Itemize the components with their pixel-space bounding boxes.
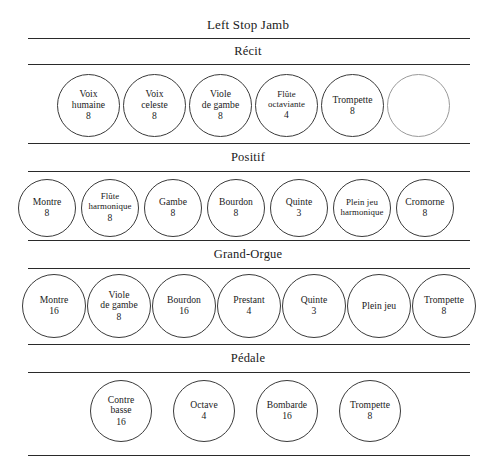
stop-name-line2: celeste (141, 100, 167, 111)
stop-knob[interactable]: Trompette8 (339, 380, 401, 442)
divider-rule (28, 268, 470, 269)
division-label-grand-orgue: Grand-Orgue (0, 247, 496, 262)
stop-knob[interactable]: Plein jeuharmonique (333, 179, 391, 237)
stop-knob[interactable]: Trompette8 (412, 274, 476, 338)
stop-pitch: 8 (368, 411, 373, 422)
stop-pitch: 4 (284, 110, 289, 121)
stop-knob[interactable]: Prestant4 (217, 274, 281, 338)
stop-knob[interactable]: Flûteoctaviante4 (255, 74, 318, 137)
page-title: Left Stop Jamb (0, 17, 496, 33)
stop-knob[interactable]: Montre16 (22, 274, 86, 338)
stop-name-line1: Prestant (233, 295, 264, 306)
stop-name-line1: Cromorne (405, 197, 444, 208)
stop-knob[interactable]: Bombarde16 (256, 380, 318, 442)
stop-pitch: 8 (86, 111, 91, 122)
divider-rule (28, 372, 470, 373)
division-label-pedale: Pédale (0, 351, 496, 366)
stop-pitch: 4 (202, 411, 207, 422)
stop-pitch: 8 (45, 208, 50, 219)
stop-pitch: 8 (350, 106, 355, 117)
stop-knob[interactable]: Bourdon16 (152, 274, 216, 338)
stop-knob[interactable]: Violede gambe8 (189, 74, 252, 137)
divider-rule (28, 143, 470, 144)
stop-knob[interactable]: Cromorne8 (396, 179, 454, 237)
stop-name-line1: Octave (190, 400, 217, 411)
divider-rule (28, 64, 470, 65)
stop-pitch: 16 (179, 306, 189, 317)
stop-name-line2: octaviante (268, 100, 305, 110)
stop-name-line1: Montre (40, 295, 69, 306)
stop-knob[interactable]: Voixceleste8 (123, 74, 186, 137)
stop-name-line1: Gambe (159, 197, 187, 208)
stop-knob[interactable]: Voixhumaine8 (57, 74, 120, 137)
stop-name-line1: Trompette (350, 400, 390, 411)
stop-name-line1: Quinte (301, 295, 327, 306)
stop-name-line1: Trompette (332, 95, 372, 106)
stop-row-positif: Montre8Flûteharmonique8Gambe8Bourdon8Qui… (0, 177, 496, 247)
stop-pitch: 8 (423, 208, 428, 219)
stop-pitch: 3 (312, 306, 317, 317)
stop-name-line2: humaine (72, 100, 105, 111)
stop-pitch: 8 (152, 111, 157, 122)
stop-knob[interactable]: Gambe8 (144, 179, 202, 237)
stop-pitch: 8 (442, 306, 447, 317)
stop-pitch: 4 (247, 306, 252, 317)
division-label-recit: Récit (0, 44, 496, 59)
stop-knob-blank[interactable] (387, 74, 450, 137)
stop-knob[interactable]: Montre8 (18, 179, 76, 237)
stop-pitch: 16 (282, 411, 292, 422)
stop-name-line2: basse (110, 405, 131, 416)
divider-rule (28, 344, 470, 345)
division-label-positif: Positif (0, 150, 496, 165)
stop-knob[interactable]: Contrebasse16 (90, 380, 152, 442)
stop-row-recit: Voixhumaine8Voixceleste8Violede gambe8Fl… (0, 72, 496, 142)
stop-name-line2: harmonique (341, 208, 384, 218)
stop-knob[interactable]: Bourdon8 (207, 179, 265, 237)
divider-rule (28, 455, 470, 456)
stop-pitch: 8 (108, 213, 113, 224)
divider-rule (28, 38, 470, 39)
stop-name-line1: Trompette (424, 295, 464, 306)
stop-name-line1: Bombarde (267, 400, 307, 411)
stop-knob[interactable]: Flûteharmonique8 (81, 179, 139, 237)
stop-pitch: 16 (116, 417, 126, 428)
stop-knob[interactable]: Quinte3 (282, 274, 346, 338)
stop-pitch: 3 (297, 208, 302, 219)
stop-knob[interactable]: Plein jeu (347, 274, 411, 338)
stop-name-line2: de gambe (100, 300, 137, 311)
stop-knob[interactable]: Quinte3 (270, 179, 328, 237)
stop-name-line1: Plein jeu (362, 301, 396, 312)
stop-knob[interactable]: Trompette8 (321, 74, 384, 137)
stop-name-line2: de gambe (202, 100, 239, 111)
stop-name-line2: harmonique (89, 202, 132, 212)
left-stop-jamb-diagram: Left Stop Jamb Récit Voixhumaine8Voixcel… (0, 0, 496, 476)
stop-knob[interactable]: Violede gambe8 (87, 274, 151, 338)
divider-rule (28, 240, 470, 241)
stop-knob[interactable]: Octave4 (173, 380, 235, 442)
stop-pitch: 16 (49, 306, 59, 317)
stop-pitch: 8 (234, 208, 239, 219)
stop-name-line1: Bourdon (167, 295, 201, 306)
stop-row-pedale: Contrebasse16Octave4Bombarde16Trompette8 (0, 378, 496, 448)
stop-name-line1: Montre (33, 197, 62, 208)
stop-row-grand-orgue: Montre16Violede gambe8Bourdon16Prestant4… (0, 272, 496, 342)
divider-rule (28, 171, 470, 172)
stop-pitch: 8 (117, 312, 122, 323)
stop-name-line1: Quinte (286, 197, 312, 208)
stop-pitch: 8 (171, 208, 176, 219)
stop-pitch: 8 (218, 111, 223, 122)
stop-name-line1: Bourdon (219, 197, 253, 208)
